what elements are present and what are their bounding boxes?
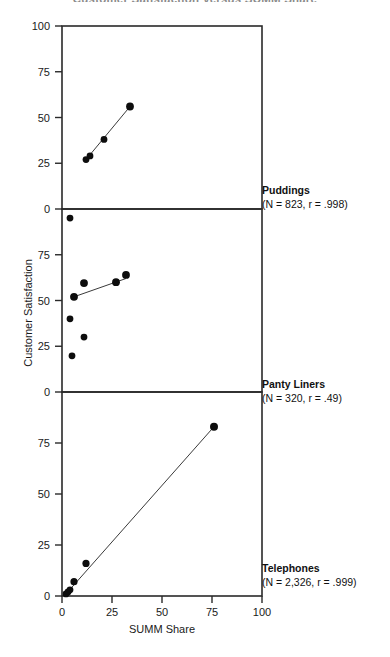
data-point xyxy=(80,279,88,287)
ytick-label-p2-25: 25 xyxy=(38,539,50,551)
ytick-label-p2-50: 50 xyxy=(38,488,50,500)
ytick-label-p0-75: 75 xyxy=(38,66,50,78)
ytick-label-p0-100: 100 xyxy=(32,20,50,32)
data-point xyxy=(87,153,94,160)
x-axis: 0 25 50 75 100 SUMM Share xyxy=(59,596,271,635)
panel-telephones: 75 50 25 0 xyxy=(38,392,262,602)
fit-line-puddings xyxy=(86,107,130,160)
panel-stats-panty-liners: (N = 320, r = .49) xyxy=(262,392,388,405)
data-point xyxy=(70,578,77,585)
data-point xyxy=(82,560,89,567)
panel-puddings: 100 75 50 25 0 xyxy=(32,20,262,215)
panel-caption-telephones: Telephones (N = 2,326, r = .999) xyxy=(262,562,388,589)
ytick-label-p0-50: 50 xyxy=(38,112,50,124)
panel-stats-telephones: (N = 2,326, r = .999) xyxy=(262,576,388,589)
data-point xyxy=(69,352,76,359)
data-point xyxy=(112,278,120,286)
xtick-label-25: 25 xyxy=(106,606,118,618)
panel-name-telephones: Telephones xyxy=(262,562,388,575)
data-point xyxy=(70,293,78,301)
scatter-plot-svg: 100 75 50 25 0 75 50 25 0 xyxy=(0,0,390,657)
data-point xyxy=(67,315,74,322)
data-point xyxy=(210,423,218,431)
ytick-label-p1-50: 50 xyxy=(38,295,50,307)
data-point xyxy=(67,215,74,222)
ytick-label-p1-0: 0 xyxy=(44,386,50,398)
xtick-label-100: 100 xyxy=(253,606,271,618)
data-point xyxy=(67,586,74,593)
panel-name-panty-liners: Panty Liners xyxy=(262,378,388,391)
ytick-label-p1-75: 75 xyxy=(38,249,50,261)
ytick-label-p0-0: 0 xyxy=(44,203,50,215)
ytick-label-p0-25: 25 xyxy=(38,157,50,169)
data-point xyxy=(81,334,88,341)
panel-panty-liners-frame xyxy=(62,209,262,392)
xtick-label-75: 75 xyxy=(206,606,218,618)
ytick-label-p2-75: 75 xyxy=(38,437,50,449)
figure-container: Customer Satisfaction Versus SUMM Share … xyxy=(0,0,390,657)
panel-panty-liners: 75 50 25 0 xyxy=(38,209,262,398)
data-point xyxy=(126,103,134,111)
fit-line-telephones xyxy=(66,427,214,594)
panel-telephones-frame xyxy=(62,392,262,596)
panel-puddings-frame xyxy=(62,26,262,209)
xtick-label-0: 0 xyxy=(59,606,65,618)
data-point xyxy=(101,136,108,143)
ytick-label-p1-25: 25 xyxy=(38,340,50,352)
ytick-label-p2-0: 0 xyxy=(44,590,50,602)
x-axis-title: SUMM Share xyxy=(129,623,195,635)
panel-caption-puddings: Puddings (N = 823, r = .998) xyxy=(262,184,388,211)
data-point xyxy=(122,271,130,279)
xtick-label-50: 50 xyxy=(156,606,168,618)
panel-caption-panty-liners: Panty Liners (N = 320, r = .49) xyxy=(262,378,388,405)
panel-name-puddings: Puddings xyxy=(262,184,388,197)
panel-stats-puddings: (N = 823, r = .998) xyxy=(262,198,388,211)
